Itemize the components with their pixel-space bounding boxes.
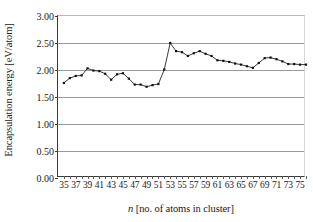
data-point-marker (163, 68, 165, 70)
data-point-marker (216, 59, 218, 61)
x-tick-label: 49 (142, 180, 151, 190)
data-point-marker (122, 72, 124, 74)
data-point-marker (175, 50, 177, 52)
y-axis-label: Encapsulation energy [eV/atom] (2, 0, 16, 185)
x-tick-label: 35 (59, 180, 68, 190)
data-point-marker (81, 74, 83, 76)
data-point-marker (287, 63, 289, 65)
plot-area: 0.000.501.001.502.002.503.00 35373941434… (57, 15, 305, 177)
data-series (58, 16, 306, 178)
x-tick-label: 71 (272, 180, 281, 190)
data-point-marker (299, 64, 301, 66)
data-point-marker (222, 60, 224, 62)
x-tick-label: 69 (260, 180, 269, 190)
data-point-marker (169, 42, 171, 44)
x-tick-label: 65 (236, 180, 245, 190)
data-point-marker (75, 75, 77, 77)
x-tick-label: 43 (107, 180, 116, 190)
data-point-marker (293, 63, 295, 65)
data-point-marker (252, 67, 254, 69)
x-axis-label-text: [no. of atoms in cluster] (133, 203, 234, 214)
x-tick-label: 57 (189, 180, 198, 190)
data-point-marker (116, 73, 118, 75)
data-point-marker (258, 62, 260, 64)
x-tick-label: 75 (296, 180, 305, 190)
data-point-marker (305, 64, 307, 66)
data-point-marker (151, 84, 153, 86)
data-point-marker (205, 53, 207, 55)
y-tick-label: 1.50 (37, 92, 55, 103)
data-point-marker (240, 64, 242, 66)
x-tick-label: 39 (83, 180, 92, 190)
y-tick-label: 0.50 (37, 146, 55, 157)
data-point-marker (181, 51, 183, 53)
data-point-marker (63, 82, 65, 84)
encapsulation-energy-chart: Encapsulation energy [eV/atom] n [no. of… (0, 0, 313, 222)
data-point-marker (187, 55, 189, 57)
x-tick-label: 63 (225, 180, 234, 190)
x-tick-mark (306, 176, 307, 179)
data-point-marker (157, 83, 159, 85)
x-tick-label: 53 (166, 180, 175, 190)
data-point-marker (140, 83, 142, 85)
data-point-marker (86, 67, 88, 69)
data-point-marker (92, 69, 94, 71)
x-tick-label: 59 (201, 180, 210, 190)
x-tick-label: 73 (284, 180, 293, 190)
y-tick-label: 0.00 (37, 173, 55, 184)
x-tick-label: 61 (213, 180, 222, 190)
x-tick-label: 55 (177, 180, 186, 190)
data-point-marker (264, 57, 266, 59)
data-point-marker (193, 52, 195, 54)
x-tick-label: 67 (248, 180, 257, 190)
x-tick-label: 51 (154, 180, 163, 190)
data-point-marker (110, 79, 112, 81)
x-tick-label: 47 (130, 180, 139, 190)
y-tick-mark (55, 178, 59, 179)
y-tick-label: 2.00 (37, 65, 55, 76)
x-tick-label: 45 (118, 180, 127, 190)
y-tick-label: 2.50 (37, 38, 55, 49)
data-point-marker (104, 73, 106, 75)
data-point-marker (128, 78, 130, 80)
data-point-marker (134, 83, 136, 85)
x-axis-label: n [no. of atoms in cluster] (57, 203, 305, 214)
data-point-marker (234, 62, 236, 64)
data-point-marker (98, 70, 100, 72)
data-point-marker (281, 60, 283, 62)
data-point-marker (228, 61, 230, 63)
series-line (64, 43, 306, 87)
data-point-marker (69, 77, 71, 79)
data-point-marker (275, 58, 277, 60)
x-tick-label: 41 (95, 180, 104, 190)
y-tick-label: 1.00 (37, 119, 55, 130)
y-tick-label: 3.00 (37, 11, 55, 22)
data-point-marker (246, 65, 248, 67)
data-point-marker (210, 55, 212, 57)
data-point-marker (269, 56, 271, 58)
data-point-marker (145, 86, 147, 88)
x-tick-label: 37 (71, 180, 80, 190)
data-point-marker (199, 50, 201, 52)
